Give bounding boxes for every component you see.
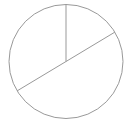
pie-chart-canvas [0,0,132,131]
pie-chart-figure [0,0,132,131]
